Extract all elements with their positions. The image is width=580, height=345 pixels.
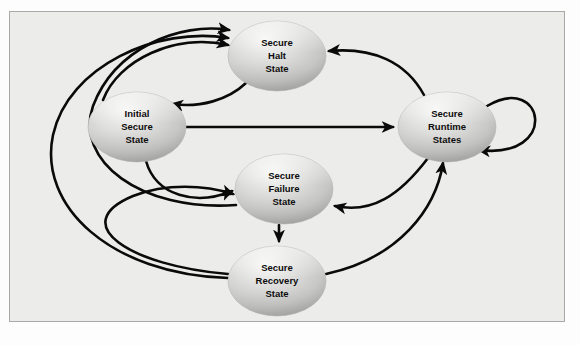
initial-secure-state[interactable]: InitialSecureState xyxy=(88,92,186,162)
edge-recovery-to-runtime xyxy=(326,163,443,274)
secure-recovery-state-highlight xyxy=(228,246,326,316)
secure-failure-state-highlight xyxy=(235,154,333,224)
initial-secure-state-highlight xyxy=(88,92,186,162)
edge-runtime-to-failure xyxy=(335,158,428,208)
secure-halt-state[interactable]: SecureHaltState xyxy=(228,21,326,91)
secure-runtime-states[interactable]: SecureRuntimeStates xyxy=(398,92,496,162)
secure-runtime-states-highlight xyxy=(398,92,496,162)
edge-initial-to-halt xyxy=(103,42,228,100)
edge-halt-to-initial xyxy=(172,83,246,105)
edge-initial-to-failure xyxy=(146,161,232,198)
secure-recovery-state[interactable]: SecureRecoveryState xyxy=(228,246,326,316)
secure-failure-state[interactable]: SecureFailureState xyxy=(235,154,333,224)
state-transition-diagram: SecureHaltStateInitialSecureStateSecureR… xyxy=(0,0,580,345)
edge-runtime-to-halt xyxy=(329,50,424,95)
secure-halt-state-highlight xyxy=(228,21,326,91)
diagram-root: SecureHaltStateInitialSecureStateSecureR… xyxy=(0,0,580,345)
